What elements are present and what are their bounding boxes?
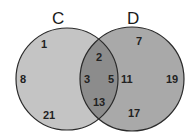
element-c-1: 1 — [41, 38, 47, 50]
set-label-c: C — [52, 9, 64, 28]
element-d-19: 19 — [166, 73, 178, 85]
element-d-17: 17 — [128, 107, 140, 119]
element-cd-3: 3 — [84, 73, 90, 85]
element-c-8: 8 — [20, 73, 26, 85]
element-d-7: 7 — [136, 35, 142, 47]
element-d-11: 11 — [121, 73, 133, 85]
set-label-d: D — [127, 9, 139, 28]
element-cd-13: 13 — [93, 96, 105, 108]
element-cd-2: 2 — [96, 51, 102, 63]
element-c-21: 21 — [43, 109, 55, 121]
element-cd-5: 5 — [108, 73, 114, 85]
venn-diagram: C D 1 8 21 2 3 5 13 7 11 19 17 — [0, 0, 192, 136]
